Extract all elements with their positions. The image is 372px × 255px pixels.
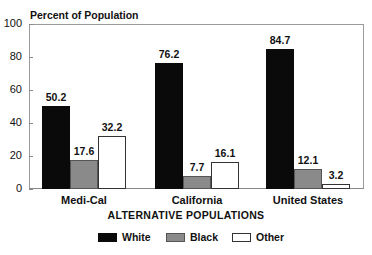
- bar-other: [322, 184, 350, 189]
- y-tick-mark: [29, 24, 33, 25]
- bar-black: [70, 160, 98, 189]
- legend-label-black: Black: [190, 231, 218, 243]
- bar-other: [211, 162, 239, 189]
- y-tick-label: 20: [0, 149, 22, 161]
- y-tick-mark: [29, 123, 33, 124]
- x-category-label: California: [147, 194, 247, 206]
- bar-value-label: 12.1: [288, 154, 328, 166]
- y-tick-label: 100: [0, 17, 22, 29]
- legend-swatch-black: [166, 233, 185, 242]
- legend-label-white: White: [122, 231, 151, 243]
- y-tick-label: 0: [0, 182, 22, 194]
- y-tick-label: 40: [0, 116, 22, 128]
- bar-value-label: 76.2: [149, 48, 189, 60]
- y-tick-mark: [29, 156, 33, 157]
- bar-other: [98, 136, 126, 189]
- x-category-label: United States: [258, 194, 358, 206]
- y-tick-mark: [29, 90, 33, 91]
- bar-black: [183, 176, 211, 189]
- legend-swatch-white: [98, 233, 117, 242]
- y-tick-mark: [29, 189, 33, 190]
- x-axis-label: ALTERNATIVE POPULATIONS: [0, 209, 372, 221]
- legend-swatch-other: [232, 233, 251, 242]
- y-tick-mark: [29, 57, 33, 58]
- y-tick-label: 60: [0, 83, 22, 95]
- bar-value-label: 32.2: [92, 121, 132, 133]
- legend-label-other: Other: [256, 231, 284, 243]
- bar-value-label: 16.1: [205, 147, 245, 159]
- bar-value-label: 84.7: [260, 34, 300, 46]
- chart-title: Percent of Population: [30, 9, 139, 21]
- bar-value-label: 3.2: [316, 169, 356, 181]
- bar-white: [266, 49, 294, 189]
- bar-value-label: 50.2: [36, 91, 76, 103]
- x-category-label: Medi-Cal: [34, 194, 134, 206]
- y-tick-label: 80: [0, 50, 22, 62]
